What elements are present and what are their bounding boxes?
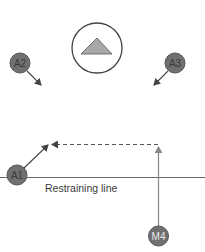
arrow-a2 <box>27 71 41 85</box>
player-a3-label: A3 <box>169 58 182 69</box>
player-a3: A3 <box>165 53 185 73</box>
player-a2-label: A2 <box>14 58 27 69</box>
player-a1: A1 <box>7 165 27 185</box>
player-a2: A2 <box>10 53 30 73</box>
player-m4-label: M4 <box>152 231 166 242</box>
arrow-a3 <box>154 71 168 85</box>
player-m4: M4 <box>149 226 169 246</box>
diagram-canvas: Restraining line A2 A3 A1 M4 <box>0 0 205 252</box>
restraining-line-label: Restraining line <box>45 182 118 194</box>
target-symbol <box>72 23 122 73</box>
arrow-a1 <box>24 145 48 168</box>
player-a1-label: A1 <box>11 170 24 181</box>
